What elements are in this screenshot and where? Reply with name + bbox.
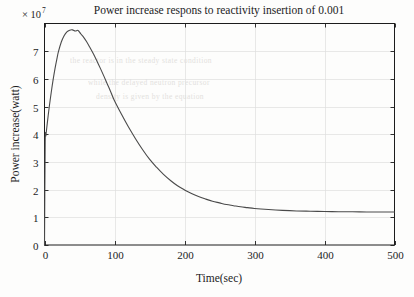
power-transient-chart: 0100200300400500 01234567 Power increase… (0, 0, 414, 297)
x-axis-title: Time(sec) (196, 272, 242, 285)
y-axis-ticks (45, 52, 395, 246)
y-tick-label: 4 (33, 129, 39, 141)
x-tick-label: 200 (177, 249, 194, 261)
x-tick-label: 0 (43, 249, 49, 261)
y-axis-tick-labels: 01234567 (33, 46, 39, 252)
y-tick-label: 6 (33, 74, 39, 86)
x-axis-tick-labels: 0100200300400500 (43, 249, 405, 261)
y-axis-multiplier-exponent: 7 (42, 6, 46, 15)
y-tick-label: 2 (33, 185, 39, 197)
y-axis-multiplier: × 10 (22, 9, 41, 20)
chart-title: Power increase respons to reactivity ins… (94, 4, 345, 17)
x-tick-label: 500 (387, 249, 404, 261)
x-tick-label: 100 (107, 249, 124, 261)
y-tick-label: 3 (33, 157, 39, 169)
y-tick-label: 1 (33, 212, 39, 224)
x-tick-label: 300 (247, 249, 264, 261)
figure-container: the reactor is in the steady state condi… (0, 0, 414, 297)
power-curve (45, 30, 395, 245)
x-tick-label: 400 (317, 249, 334, 261)
y-axis-title: Power increase(watt) (9, 85, 22, 183)
y-tick-label: 5 (33, 102, 39, 114)
y-tick-label: 7 (33, 46, 39, 58)
horizontal-gridlines (45, 52, 395, 218)
y-tick-label: 0 (33, 240, 39, 252)
